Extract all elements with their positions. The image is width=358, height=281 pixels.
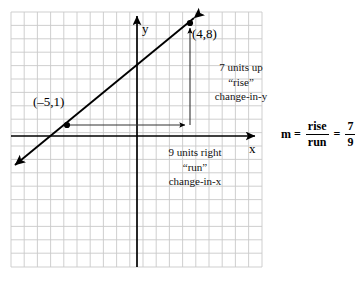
slope-figure: y x (–5,1) (4,8) 7 units up “rise” chang… [0,0,358,281]
slope-variable: m [281,127,291,142]
slope-equals-2: = [331,127,344,142]
point-label-neg5-1: (–5,1) [33,94,64,110]
slope-formula: m = rise run = 7 9 [281,120,357,148]
y-axis-label: y [142,21,149,37]
rise-over-run-fraction: rise run [304,120,331,148]
rise-annotation-line-1: 7 units up [190,60,292,75]
run-annotation-line-2: “run” [141,160,249,175]
run-annotation: 9 units right “run” change-in-x [141,145,249,189]
graph-line [15,18,194,165]
fraction-denominator-run: run [306,134,329,149]
seven-over-nine-fraction: 7 9 [343,120,357,148]
rise-annotation-line-2: “rise” [190,75,292,90]
x-axis-label: x [249,141,256,157]
run-annotation-line-3: change-in-x [141,174,249,189]
fraction-denominator-nine: 9 [345,134,355,149]
plotted-point-1 [64,122,70,128]
rise-annotation-line-3: change-in-y [190,89,292,104]
fraction-numerator-seven: 7 [345,120,355,134]
point-label-4-8: (4,8) [192,26,217,42]
rise-annotation: 7 units up “rise” change-in-y [190,60,292,104]
run-annotation-line-1: 9 units right [141,145,249,160]
slope-equals-1: = [291,127,304,142]
fraction-numerator-rise: rise [306,120,329,134]
